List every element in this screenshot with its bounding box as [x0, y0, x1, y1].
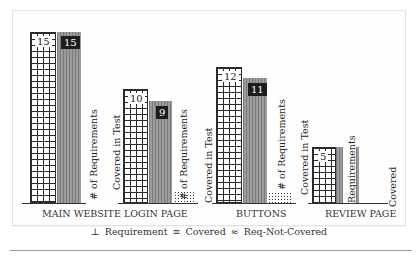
value-buttons-covered: 11	[248, 83, 267, 96]
rotated-label-covered: Covered in Test	[299, 120, 310, 195]
not-covered-marker-icon: ≈	[231, 226, 239, 237]
legend-requirement: Requirement	[105, 226, 168, 237]
rotated-label-covered: Covered in Test	[111, 115, 122, 190]
category-label-review-page: REVIEW PAGE	[325, 208, 396, 219]
covered-marker-icon: ≡	[173, 226, 181, 237]
requirement-marker-icon: ⊥	[91, 226, 100, 237]
category-label-buttons: BUTTONS	[236, 208, 286, 219]
bar-buttons-requirement	[216, 67, 242, 203]
rotated-label-covered: Covered	[387, 167, 398, 207]
rotated-label-requirements: # of Requirements	[276, 99, 287, 190]
value-main-website-covered: 15	[61, 36, 80, 49]
bar-login-page-requirement	[123, 89, 148, 203]
value-review-page-requirement: 5	[318, 151, 328, 162]
baseline	[308, 203, 388, 204]
baseline	[22, 203, 86, 204]
bar-buttons-not-covered	[268, 192, 293, 203]
category-label-main-website: MAIN WEBSITE	[42, 208, 121, 219]
baseline	[212, 203, 296, 204]
value-main-website-requirement: 15	[35, 36, 52, 47]
rotated-label-covered: Covered in Test	[203, 128, 214, 203]
legend-req-not-covered: Req-Not-Covered	[244, 226, 327, 237]
value-buttons-requirement: 12	[222, 71, 239, 82]
rotated-label-requirements: # of Requirements	[178, 109, 189, 200]
baseline	[118, 203, 198, 204]
bar-buttons-covered	[243, 78, 267, 203]
bar-main-website-covered	[57, 32, 81, 203]
chart-plot-area: 15 15 # of Requirements Covered in Test …	[0, 0, 418, 261]
category-label-login-page: LOGIN PAGE	[124, 208, 188, 219]
bar-review-page-line	[356, 147, 359, 203]
legend-covered: Covered	[186, 226, 226, 237]
value-login-page-requirement: 10	[128, 93, 145, 104]
chart-legend: ⊥ Requirement ≡ Covered ≈ Req-Not-Covere…	[0, 226, 418, 237]
bar-review-page-covered	[336, 147, 343, 203]
value-login-page-covered: 9	[156, 106, 168, 119]
bar-main-website-requirement	[30, 32, 56, 203]
rotated-label-requirements: # of Requirements	[88, 109, 99, 200]
